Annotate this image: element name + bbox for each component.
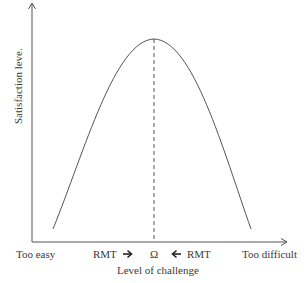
x-axis-label: Level of challenge: [117, 264, 199, 277]
left-arrow-icon: [173, 251, 182, 258]
x-left-label: Too easy: [16, 248, 55, 261]
x-right-label: Too difficult: [242, 248, 297, 261]
satisfaction-challenge-diagram: [0, 0, 307, 283]
y-axis-label: Satisfaction leve.: [12, 48, 25, 124]
left-rmt-label: RMT: [93, 248, 117, 261]
satisfaction-curve: [53, 39, 251, 229]
right-rmt-label: RMT: [187, 248, 211, 261]
optimum-omega-label: Ω: [150, 248, 158, 261]
right-arrow-icon: [123, 251, 132, 258]
